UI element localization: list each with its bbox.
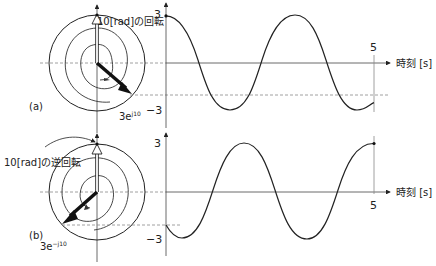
y-max-label-a: 3 xyxy=(154,9,161,20)
y-min-label-a: −3 xyxy=(146,105,162,116)
endpoint-exp-a: j10 xyxy=(132,110,141,117)
axis-label-b: 時刻 [s] xyxy=(396,188,432,198)
panel-label-a: (a) xyxy=(29,102,43,112)
phasor-diagram xyxy=(0,0,436,266)
endpoint-base-a: 3e xyxy=(119,111,132,122)
panel-b xyxy=(40,133,390,262)
y-max-label-b: 3 xyxy=(154,138,161,149)
waveform-a xyxy=(166,15,374,110)
panel-a xyxy=(40,3,390,133)
panel-label-b: (b) xyxy=(29,231,43,241)
endpoint-label-b: 3e−j10 xyxy=(40,241,67,252)
rotation-label-b: 10[rad]の逆回転 xyxy=(4,158,81,168)
axis-label-a: 時刻 [s] xyxy=(396,59,432,69)
endpoint-base-b: 3e xyxy=(40,241,53,252)
endpoint-label-a: 3ej10 xyxy=(119,111,141,122)
rotation-pointer-b xyxy=(45,137,95,147)
t-end-label-b: 5 xyxy=(370,200,377,211)
waveform-b xyxy=(166,143,374,239)
endpoint-exp-b: −j10 xyxy=(53,240,67,247)
y-min-label-b: −3 xyxy=(146,234,162,245)
t-end-label-a: 5 xyxy=(370,42,377,53)
